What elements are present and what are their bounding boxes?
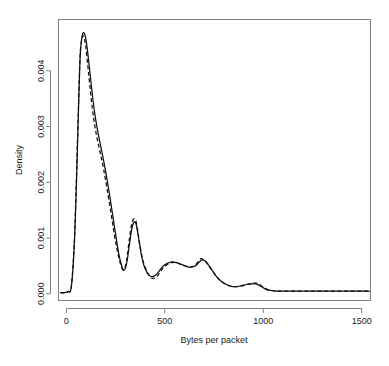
y-tick-label: 0.002 [37, 171, 47, 194]
x-tick-label: 1500 [352, 316, 372, 326]
plot-canvas: 0.0000.0010.0020.0030.004 050010001500 B… [0, 0, 389, 366]
x-axis-title: Bytes per packet [180, 335, 248, 345]
y-axis-title: Density [14, 144, 24, 175]
y-tick-label: 0.001 [37, 227, 47, 250]
y-axis: 0.0000.0010.0020.0030.004 [37, 60, 51, 306]
y-tick-label: 0.000 [37, 283, 47, 306]
x-axis: 050010001500 [64, 309, 372, 326]
y-tick-label: 0.003 [37, 115, 47, 138]
x-tick-label: 1000 [253, 316, 273, 326]
y-tick-label: 0.004 [37, 60, 47, 83]
curve-density-dashed [60, 36, 369, 293]
density-curves [60, 33, 369, 293]
curve-density-solid [60, 33, 369, 293]
plot-frame [59, 20, 371, 301]
density-plot-figure: 0.0000.0010.0020.0030.004 050010001500 B… [0, 0, 389, 366]
x-tick-label: 0 [64, 316, 69, 326]
x-tick-label: 500 [157, 316, 172, 326]
